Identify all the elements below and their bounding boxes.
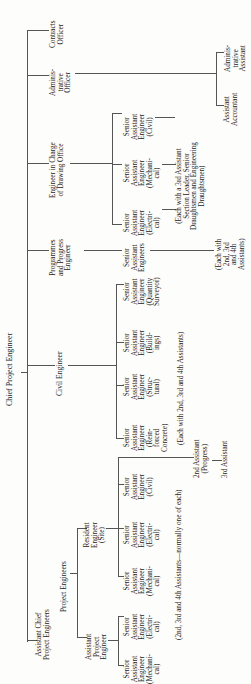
drawing-sae-electrical: Senior Assistant Engineer (Electri- cal) <box>124 210 162 236</box>
engineer-drawing-office: Engineer in Charge of Drawing Office <box>50 142 65 198</box>
resident-to-sub <box>106 528 118 529</box>
resident-sae-civil: Senior Assistant Engineer (Civil) <box>124 474 154 500</box>
second-to-third <box>212 460 222 461</box>
d-elec-note <box>162 209 176 210</box>
assistant-accountant: Assistant Accountant <box>224 93 239 126</box>
assistant-project-engineer: Assistant Project Engineer <box>86 634 109 660</box>
drawing-office-note: (Each with a 3rd Assistant Section Leade… <box>176 142 206 230</box>
admin-sub-spine <box>216 52 217 106</box>
sae-to-note <box>150 250 214 251</box>
resident-to-2nd <box>118 457 194 458</box>
chief-project-engineer: Chief Project Engineer <box>6 333 14 406</box>
d-elec-branch <box>112 224 122 225</box>
civil-sae-reinforced-concrete: Senior Assistant Engineer (Rein- forced … <box>124 424 170 452</box>
drawing-branch <box>27 163 49 164</box>
progress-senior-assistant-engineers: Senior Assistant Engineers <box>124 243 147 272</box>
resident-sae-electrical: Senior Assistant Engineer (Electri- cal) <box>124 522 162 548</box>
progress-branch <box>27 250 49 251</box>
resident-sae-mechanical: Senior Assistant Engineer (Mechani- cal) <box>124 566 162 596</box>
assistant-chief-project-engineers: Assistant Chief Project Engineers <box>36 609 51 660</box>
programmes-progress-engineer: Programmes and Progress Engineer <box>50 239 73 276</box>
civil-sae-buildings: Senior Assistant Engineer (Build- ings) <box>124 330 162 356</box>
d-mech-note <box>162 164 176 165</box>
d-mech-branch <box>112 164 122 165</box>
resident-note: (2nd, 3rd and 4th Assistants—normally on… <box>176 489 184 640</box>
administrative-assistant: Adminis- trative Assistant <box>225 45 248 72</box>
project-engineers: Project Engineers <box>61 561 69 612</box>
progress-to-sae <box>84 250 122 251</box>
main-spine <box>27 30 28 642</box>
civil-to-sub <box>68 365 116 366</box>
admin-asst-branch <box>216 52 224 53</box>
civil-engineer: Civil Engineer <box>56 352 64 397</box>
admin-to-sub <box>75 73 217 74</box>
d-civil-note <box>155 117 175 118</box>
pe-sub-spine <box>77 528 78 638</box>
d-civil-branch <box>112 113 122 114</box>
contracts-officer: Contracts Officer <box>50 20 65 48</box>
resident-sub-spine <box>118 457 119 577</box>
chief-tick <box>21 372 27 373</box>
civil-branch <box>27 365 55 366</box>
resident-engineer: Resident Engineer (Site) <box>84 522 107 548</box>
contracts-branch <box>27 30 49 31</box>
ape-sub-spine <box>118 616 119 666</box>
admin-branch <box>27 75 49 76</box>
ape-sae-electrical: Senior Assistant Engineer (Electri- cal) <box>124 614 162 640</box>
civil-sae-structural: Senior Assistant Engineer (Struc- tural) <box>124 374 162 400</box>
second-assistant-progress: 2nd Assistant (Progress) <box>194 439 209 478</box>
drawing-to-sub <box>70 163 112 164</box>
drawing-sae-civil: Senior Assistant Engineer (Civil) <box>124 114 154 140</box>
civil-sae-quantity-surveyor: Senior Assistant Engineer (Quantity Surv… <box>124 277 162 306</box>
civil-sub-spine <box>116 284 117 439</box>
administrative-officer: Adminis- trative Officer <box>50 69 73 96</box>
ape-to-sub <box>108 640 118 641</box>
progress-note: (Each with 2nd, 3rd and 4th Assistants) <box>216 238 246 270</box>
drawing-sae-mechanical: Senior Assistant Engineer (Mechani- cal) <box>124 158 162 188</box>
third-assistant: 3rd Assistant <box>222 441 230 478</box>
drawing-sub-spine <box>112 113 113 225</box>
civil-note: (Each with 2nd, 3rd and 4th Assistants) <box>178 332 186 445</box>
ape-sae-mechanical: Senior Assistant Engineer (Mechani- cal) <box>124 654 162 684</box>
